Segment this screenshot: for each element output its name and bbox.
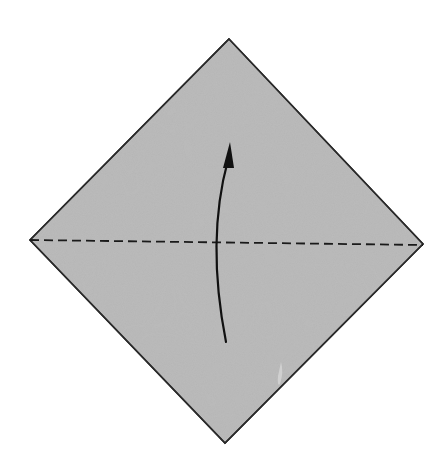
origami-diagram (0, 0, 448, 469)
